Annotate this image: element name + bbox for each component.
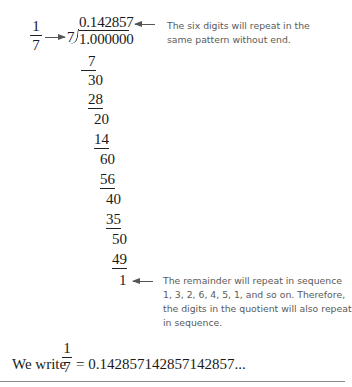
- quotient: 0.142857: [79, 14, 134, 30]
- conclusion-result: = 0.142857142857142857...: [76, 356, 246, 372]
- quotient-note: The six digits will repeat in the same p…: [167, 19, 310, 47]
- remainder-note-line: in sequence.: [163, 316, 352, 330]
- step-subtract-35: 35: [106, 211, 121, 227]
- dividend: 1.000000: [79, 31, 134, 47]
- step-remainder-30: 30: [88, 72, 103, 88]
- remainder-note: The remainder will repeat in sequence 1,…: [163, 274, 352, 330]
- conclusion-prefix: We write: [12, 356, 66, 372]
- fraction-denominator: 7: [62, 360, 72, 375]
- step-remainder-50: 50: [112, 231, 127, 247]
- step-remainder-60: 60: [100, 151, 115, 167]
- fraction-denominator: 7: [30, 38, 42, 53]
- conclusion-fraction: 1 7: [62, 341, 72, 375]
- step-subtract-7: 7: [81, 53, 96, 69]
- step-subtract-49: 49: [112, 251, 127, 267]
- fraction-numerator: 1: [62, 341, 72, 356]
- quotient-note-line: The six digits will repeat in the: [167, 19, 310, 33]
- remainder-note-line: The remainder will repeat in sequence: [163, 274, 352, 288]
- step-subtract-28: 28: [88, 91, 103, 107]
- fraction-bar: [62, 357, 72, 358]
- arrow-left-icon: [133, 281, 153, 282]
- division-bracket: [70, 29, 79, 44]
- arrow-left-icon: [135, 24, 155, 25]
- step-subtract-56: 56: [100, 171, 115, 187]
- horizontal-rule: [0, 381, 345, 382]
- remainder-note-line: 1, 3, 2, 6, 4, 5, 1, and so on. Therefor…: [163, 288, 352, 302]
- quotient-note-line: same pattern without end.: [167, 33, 310, 47]
- fraction-bar: [30, 35, 42, 36]
- step-subtract-14: 14: [94, 131, 109, 147]
- step-remainder-40: 40: [106, 191, 121, 207]
- remainder-note-line: the digits in the quotient will also rep…: [163, 302, 352, 316]
- step-remainder-1: 1: [119, 272, 127, 288]
- fraction-numerator: 1: [30, 19, 42, 34]
- arrow-right-icon: [45, 37, 65, 38]
- fraction-one-seventh: 1 7: [30, 19, 42, 53]
- step-remainder-20: 20: [94, 111, 109, 127]
